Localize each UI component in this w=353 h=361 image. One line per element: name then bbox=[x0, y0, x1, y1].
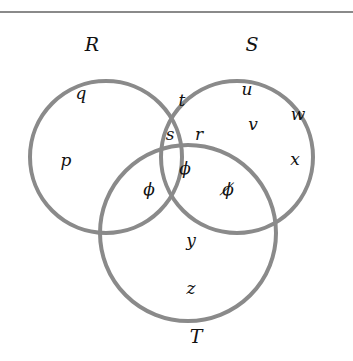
element-label: x bbox=[290, 149, 300, 169]
set-label-r: R bbox=[84, 33, 99, 55]
element-label: u bbox=[242, 79, 253, 99]
set-label-t: T bbox=[190, 325, 204, 347]
element-label: z bbox=[186, 278, 197, 298]
element-label: y bbox=[185, 230, 196, 250]
element-label: q bbox=[76, 83, 87, 103]
element-label: w bbox=[291, 104, 306, 124]
set-circles bbox=[30, 81, 313, 321]
set-label-s: S bbox=[245, 33, 258, 55]
element-label: r bbox=[195, 124, 204, 144]
element-label: v bbox=[248, 114, 258, 134]
element-label: ϕ̸ bbox=[219, 179, 235, 199]
element-label: p bbox=[61, 150, 72, 170]
element-label: ϕ bbox=[143, 179, 155, 199]
element-label: ϕ bbox=[179, 158, 191, 178]
element-label: t bbox=[179, 90, 186, 110]
venn-diagram: RST qptsruvwxϕϕϕ̸yz bbox=[0, 0, 353, 361]
element-label: s bbox=[166, 124, 175, 144]
